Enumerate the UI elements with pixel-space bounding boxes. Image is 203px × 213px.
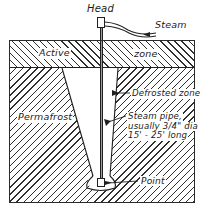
steam-arrowhead xyxy=(143,32,150,37)
label-zone-text: zone xyxy=(133,49,158,60)
label-permafrost: Permafrost xyxy=(17,112,73,123)
steam-point-diagram: Head Steam Active zone Permafrost Defros… xyxy=(0,0,203,213)
label-steam: Steam xyxy=(154,20,188,31)
steam-hose-upper xyxy=(105,22,156,34)
label-head: Head xyxy=(86,3,115,14)
label-steam-pipe-spec: Steam pipe, usually 3/4" dia 15' - 25' l… xyxy=(127,112,199,141)
label-active-zone-right: zone xyxy=(133,49,158,60)
label-active-text: Active xyxy=(38,48,71,59)
label-steam-text: Steam xyxy=(154,20,188,31)
label-defrosted-zone-text: Defrosted zone xyxy=(131,89,201,99)
label-active-zone-left: Active xyxy=(38,48,71,59)
label-point-text: Point xyxy=(140,176,166,186)
pipe-head xyxy=(97,17,105,28)
steam-hose-lower xyxy=(105,26,156,37)
label-permafrost-text: Permafrost xyxy=(17,112,73,123)
label-head-text: Head xyxy=(86,3,115,14)
label-point: Point xyxy=(140,176,166,186)
label-defrosted-zone: Defrosted zone xyxy=(131,89,201,99)
label-steam-pipe-line3: 15' - 25' long xyxy=(127,131,188,141)
